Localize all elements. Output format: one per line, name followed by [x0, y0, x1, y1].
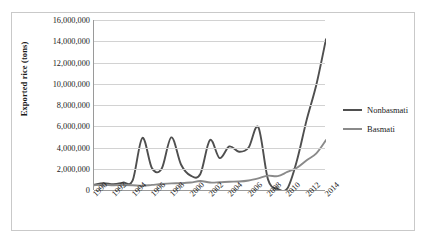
y-tick-label: 2,000,000 — [57, 164, 90, 173]
gridline — [94, 20, 325, 21]
y-tick-label: 0 — [86, 186, 90, 195]
legend-label: Basmati — [367, 124, 395, 134]
y-axis-title: Exported rice (tons) — [19, 9, 29, 149]
chart-legend: NonbasmatiBasmati — [343, 100, 423, 138]
legend-swatch-icon — [343, 109, 362, 111]
chart-figure: Exported rice (tons) 02,000,0004,000,000… — [0, 0, 426, 246]
y-tick-label: 4,000,000 — [57, 143, 90, 152]
y-tick-label: 16,000,000 — [53, 16, 90, 25]
y-axis-tick-labels: 02,000,0004,000,0006,000,0008,000,00010,… — [34, 20, 90, 190]
gridline — [94, 84, 325, 85]
legend-item: Nonbasmati — [343, 100, 423, 119]
plot-area — [93, 20, 325, 190]
gridline — [94, 63, 325, 64]
y-tick-label: 6,000,000 — [57, 122, 90, 131]
gridline — [94, 169, 325, 170]
y-tick-label: 8,000,000 — [57, 101, 90, 110]
gridline — [94, 148, 325, 149]
gridline — [94, 41, 325, 42]
y-tick-label: 12,000,000 — [53, 58, 90, 67]
gridline — [94, 126, 325, 127]
legend-swatch-icon — [343, 128, 362, 130]
gridline — [94, 105, 325, 106]
legend-label: Nonbasmati — [367, 105, 408, 115]
x-axis-tick-labels: 1990199219941996199820002002200420062008… — [93, 190, 325, 230]
y-tick-label: 10,000,000 — [53, 79, 90, 88]
y-tick-label: 14,000,000 — [53, 37, 90, 46]
legend-item: Basmati — [343, 119, 423, 138]
